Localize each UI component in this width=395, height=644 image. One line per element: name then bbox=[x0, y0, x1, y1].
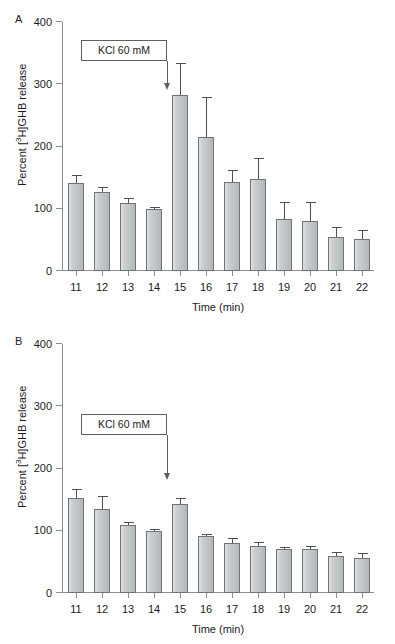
y-axis-tick-label: 300 bbox=[34, 400, 52, 412]
y-axis-tick-label: 400 bbox=[34, 16, 52, 28]
x-axis-tick-label: 18 bbox=[245, 281, 271, 293]
error-bar bbox=[284, 548, 285, 549]
y-axis-tick: 100 bbox=[56, 530, 62, 531]
x-axis-label: Time (min) bbox=[62, 301, 374, 313]
error-bar bbox=[258, 543, 259, 546]
x-axis-tick bbox=[362, 593, 363, 598]
x-axis-tick bbox=[336, 271, 337, 276]
x-axis-tick bbox=[336, 593, 337, 598]
y-axis-tick: 300 bbox=[56, 405, 62, 406]
x-axis-tick bbox=[258, 593, 259, 598]
x-axis-tick-label: 17 bbox=[219, 603, 245, 615]
y-axis-tick: 400 bbox=[56, 21, 62, 22]
bar bbox=[354, 239, 370, 271]
x-axis-tick-label: 20 bbox=[297, 603, 323, 615]
error-bar-cap bbox=[280, 547, 290, 548]
bar bbox=[198, 536, 214, 593]
error-bar bbox=[362, 554, 363, 558]
x-axis-tick-label: 14 bbox=[141, 281, 167, 293]
x-axis-tick-label: 15 bbox=[167, 603, 193, 615]
x-axis-tick bbox=[154, 271, 155, 276]
x-axis-tick bbox=[232, 271, 233, 276]
bar bbox=[146, 209, 162, 271]
error-bar-cap bbox=[98, 187, 108, 188]
bar bbox=[120, 203, 136, 271]
bar bbox=[328, 237, 344, 271]
error-bar-cap bbox=[72, 175, 82, 176]
x-axis-tick bbox=[102, 593, 103, 598]
error-bar bbox=[128, 523, 129, 525]
x-axis-label: Time (min) bbox=[62, 623, 374, 635]
bar bbox=[302, 221, 318, 271]
x-axis-tick bbox=[76, 593, 77, 598]
error-bar bbox=[128, 199, 129, 202]
y-axis-label: Percent [3H]GHB release bbox=[13, 322, 29, 571]
x-axis-tick-label: 11 bbox=[63, 603, 89, 615]
kcl-arrow-head-icon bbox=[164, 83, 170, 90]
error-bar-cap bbox=[72, 489, 82, 490]
y-axis-line bbox=[62, 344, 63, 593]
x-axis-tick bbox=[258, 271, 259, 276]
y-axis-tick: 400 bbox=[56, 343, 62, 344]
error-bar bbox=[310, 547, 311, 549]
x-axis-tick bbox=[180, 271, 181, 276]
x-axis-tick bbox=[128, 271, 129, 276]
x-axis-tick bbox=[284, 593, 285, 598]
error-bar bbox=[336, 553, 337, 557]
x-axis-tick-label: 13 bbox=[115, 281, 141, 293]
error-bar bbox=[206, 98, 207, 137]
error-bar-cap bbox=[254, 542, 264, 543]
bar bbox=[276, 549, 292, 593]
error-bar-cap bbox=[228, 538, 238, 539]
y-axis-tick: 100 bbox=[56, 208, 62, 209]
error-bar bbox=[102, 188, 103, 192]
kcl-annotation-box: KCl 60 mM bbox=[81, 414, 167, 435]
bar bbox=[172, 95, 188, 271]
error-bar bbox=[76, 176, 77, 182]
error-bar-cap bbox=[202, 534, 212, 535]
y-axis-tick: 200 bbox=[56, 146, 62, 147]
y-axis-tick: 0 bbox=[56, 270, 62, 271]
bar bbox=[250, 179, 266, 271]
x-axis-tick-label: 12 bbox=[89, 281, 115, 293]
bar bbox=[224, 543, 240, 593]
panel-b: B Percent [3H]GHB release Time (min) 010… bbox=[0, 322, 395, 644]
x-axis-tick-label: 21 bbox=[323, 603, 349, 615]
error-bar-cap bbox=[124, 198, 134, 199]
error-bar-cap bbox=[150, 529, 160, 530]
y-axis-tick-label: 200 bbox=[34, 462, 52, 474]
error-bar-cap bbox=[254, 158, 264, 159]
x-axis-tick bbox=[362, 271, 363, 276]
x-axis-tick-label: 18 bbox=[245, 603, 271, 615]
y-axis-tick-label: 400 bbox=[34, 338, 52, 350]
x-axis-tick bbox=[102, 271, 103, 276]
y-axis-tick: 200 bbox=[56, 468, 62, 469]
error-bar bbox=[232, 171, 233, 182]
x-axis-tick bbox=[154, 593, 155, 598]
error-bar-cap bbox=[98, 496, 108, 497]
error-bar-cap bbox=[228, 170, 238, 171]
error-bar-cap bbox=[306, 546, 316, 547]
error-bar bbox=[180, 499, 181, 504]
y-axis-tick: 0 bbox=[56, 592, 62, 593]
x-axis-tick-label: 16 bbox=[193, 603, 219, 615]
error-bar bbox=[362, 231, 363, 239]
y-axis-tick-label: 100 bbox=[34, 202, 52, 214]
error-bar-cap bbox=[332, 227, 342, 228]
error-bar bbox=[154, 208, 155, 209]
x-axis-tick-label: 17 bbox=[219, 281, 245, 293]
y-axis-label: Percent [3H]GHB release bbox=[13, 0, 29, 249]
bar bbox=[94, 192, 110, 271]
y-axis-label-text: Percent [3H]GHB release bbox=[14, 385, 28, 507]
y-axis-tick-label: 0 bbox=[46, 265, 52, 277]
x-axis-tick bbox=[310, 593, 311, 598]
error-bar bbox=[206, 535, 207, 536]
plot-area: Time (min) 01002003004001112131415161718… bbox=[62, 22, 374, 271]
x-axis-tick bbox=[206, 593, 207, 598]
error-bar bbox=[284, 203, 285, 220]
x-axis-tick-label: 20 bbox=[297, 281, 323, 293]
x-axis-tick-label: 12 bbox=[89, 603, 115, 615]
bar bbox=[172, 504, 188, 593]
y-axis-tick-label: 300 bbox=[34, 78, 52, 90]
x-axis-tick-label: 13 bbox=[115, 603, 141, 615]
